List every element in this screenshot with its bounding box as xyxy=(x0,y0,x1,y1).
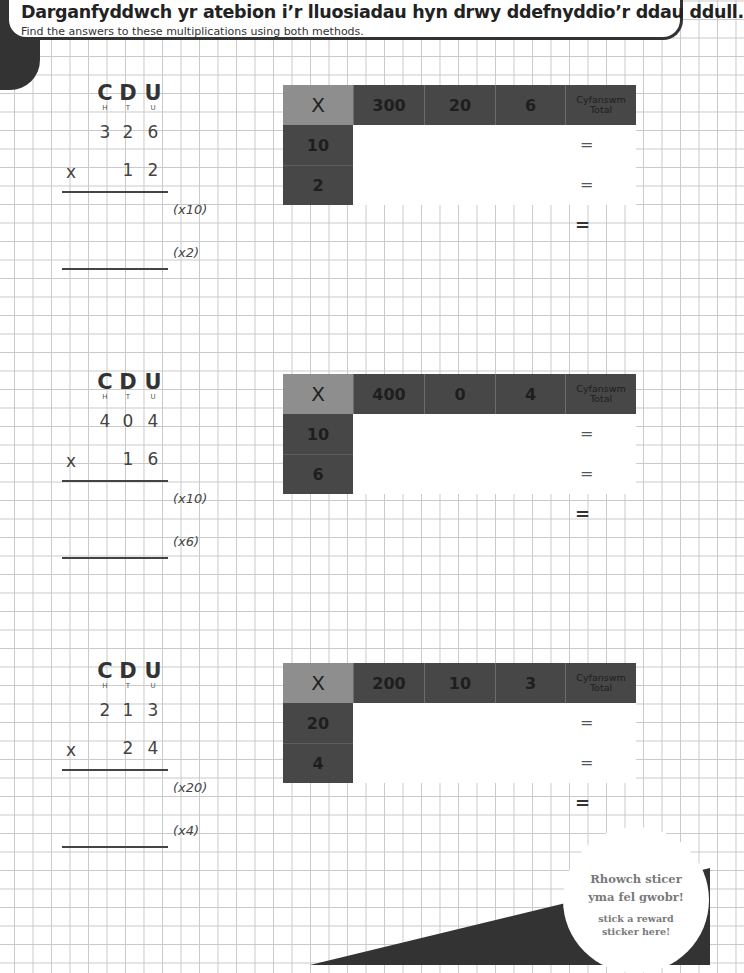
reward-sticker-area: Rhowch sticer yma fel gwobr! stick a rew… xyxy=(563,827,709,973)
sticker-welsh-line-2: yma fel gwobr! xyxy=(563,888,709,906)
sticker-english-line-2: sticker here! xyxy=(563,925,709,938)
sticker-text-welsh: Rhowch sticer yma fel gwobr! xyxy=(563,870,709,906)
sticker-english-line-1: stick a reward xyxy=(563,912,709,925)
sticker-welsh-line-1: Rhowch sticer xyxy=(563,870,709,888)
sticker-text-english: stick a reward sticker here! xyxy=(563,912,709,938)
